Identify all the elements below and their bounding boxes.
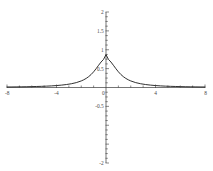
y-tick-label: 1 xyxy=(101,47,104,53)
plot-canvas: -8-4048 -2-0.50.511.52 xyxy=(0,0,213,171)
y-tick-label: -2 xyxy=(99,160,104,166)
y-tick-label: -0.5 xyxy=(95,103,104,109)
x-tick-label: 0 xyxy=(102,90,105,96)
y-tick-label: 2 xyxy=(101,9,104,15)
x-tick-label: 4 xyxy=(154,90,157,96)
plot-figure: -8-4048 -2-0.50.511.52 xyxy=(0,0,213,171)
x-tick-label: 8 xyxy=(204,90,207,96)
x-tick-label: -4 xyxy=(54,90,59,96)
x-tick-label: -8 xyxy=(5,90,10,96)
y-tick-label: 1.5 xyxy=(97,28,104,34)
